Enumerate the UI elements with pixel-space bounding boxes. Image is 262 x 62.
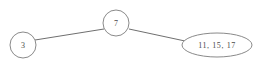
edge-root-to-right-leaf [129, 29, 185, 41]
node-root[interactable]: 7 [103, 10, 129, 36]
node-left-leaf[interactable]: 3 [10, 32, 36, 58]
graph-canvas: 3 7 11, 15, 17 [0, 0, 262, 62]
tree-diagram: 3 7 11, 15, 17 [0, 0, 262, 62]
root-label: 7 [114, 19, 118, 28]
left-leaf-label: 3 [21, 41, 25, 50]
right-leaf-label: 11, 15, 17 [198, 41, 236, 50]
node-right-leaf[interactable]: 11, 15, 17 [182, 33, 252, 57]
edge-root-to-left-leaf [35, 29, 104, 40]
